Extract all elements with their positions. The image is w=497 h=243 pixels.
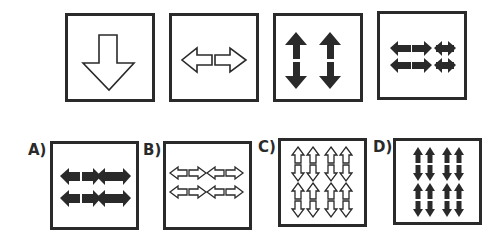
option-c-box[interactable]	[278, 138, 367, 227]
option-b-box[interactable]	[163, 141, 252, 230]
black-horizontal-double-arrows-grid-icon	[380, 14, 464, 97]
outlined-horizontal-double-arrows-grid-icon	[166, 144, 249, 227]
black-horizontal-double-arrows-grid-icon	[53, 144, 136, 227]
sequence-box-3	[273, 13, 363, 102]
black-vertical-double-arrows-icon	[276, 16, 360, 99]
option-a-box[interactable]	[50, 141, 139, 230]
outlined-down-arrow-icon	[68, 16, 152, 99]
option-c-label: C)	[258, 140, 276, 155]
sequence-box-2	[169, 13, 259, 102]
option-d-label: D)	[373, 140, 392, 155]
black-vertical-double-arrows-grid-icon	[396, 141, 479, 222]
option-d-box[interactable]	[393, 138, 482, 225]
outlined-left-right-arrows-icon	[172, 16, 256, 99]
outlined-vertical-double-arrows-grid-icon	[281, 141, 364, 224]
sequence-box-1	[65, 13, 155, 102]
sequence-box-4	[377, 11, 467, 100]
option-a-label: A)	[28, 143, 46, 158]
option-b-label: B)	[143, 143, 161, 158]
